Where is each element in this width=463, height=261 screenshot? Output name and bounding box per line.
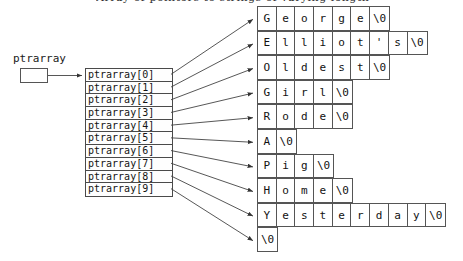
string-row: Rode\0 xyxy=(257,105,353,130)
string-char-cell: o xyxy=(276,104,296,129)
string-char-cell: A xyxy=(257,129,277,154)
string-char-cell: g xyxy=(294,154,314,179)
string-row: A\0 xyxy=(257,130,297,155)
string-char-cell: l xyxy=(294,31,314,56)
ptrarray-cell: ptrarray[8] xyxy=(86,171,172,184)
string-char-cell: t xyxy=(350,55,370,80)
string-char-cell: d xyxy=(294,104,314,129)
ptrarray-cell: ptrarray[7] xyxy=(86,158,172,171)
string-char-cell: ' xyxy=(369,31,389,56)
string-null-terminator-cell: \0 xyxy=(257,227,278,252)
string-char-cell: d xyxy=(369,203,389,228)
pointer-variable-label: ptrarray xyxy=(13,53,66,65)
string-char-cell: R xyxy=(257,104,277,129)
string-char-cell: e xyxy=(313,55,333,80)
string-char-cell: l xyxy=(276,31,296,56)
string-char-cell: Y xyxy=(257,203,277,228)
string-char-cell: s xyxy=(388,31,408,56)
string-char-cell: E xyxy=(257,31,277,56)
pointer-arrow xyxy=(171,138,253,142)
string-char-cell: H xyxy=(257,178,277,203)
string-char-cell: d xyxy=(294,55,314,80)
string-char-cell: o xyxy=(294,6,314,31)
string-null-terminator-cell: \0 xyxy=(369,6,390,31)
string-char-cell: o xyxy=(276,178,296,203)
ptrarray-cell: ptrarray[9] xyxy=(86,183,172,196)
string-row: Yesterday\0 xyxy=(257,204,446,229)
string-char-cell: G xyxy=(257,80,277,105)
string-char-cell: m xyxy=(294,178,314,203)
pointer-arrow xyxy=(171,93,253,112)
ptrarray-cell: ptrarray[2] xyxy=(86,94,172,107)
pointer-arrow xyxy=(171,19,253,74)
string-char-cell: e xyxy=(276,203,296,228)
string-char-cell: e xyxy=(313,178,333,203)
string-null-terminator-cell: \0 xyxy=(332,104,353,129)
pointer-arrow xyxy=(171,189,253,241)
string-char-cell: a xyxy=(388,203,408,228)
string-row: George\0 xyxy=(257,7,390,32)
pointer-array-diagram: Array of pointers to strings of varying … xyxy=(0,0,463,261)
string-char-cell: i xyxy=(313,31,333,56)
string-row: Home\0 xyxy=(257,179,353,204)
pointer-arrow xyxy=(171,118,253,125)
string-char-cell: i xyxy=(276,154,296,179)
string-row: \0 xyxy=(257,228,278,253)
string-row: Pig\0 xyxy=(257,155,334,180)
string-row: Elliot's\0 xyxy=(257,32,428,57)
string-char-cell: l xyxy=(276,55,296,80)
string-char-cell: e xyxy=(332,203,352,228)
string-char-cell: e xyxy=(350,6,370,31)
string-null-terminator-cell: \0 xyxy=(332,80,353,105)
pointer-arrow xyxy=(171,176,253,216)
string-char-cell: r xyxy=(294,80,314,105)
string-null-terminator-cell: \0 xyxy=(332,178,353,203)
ptrarray-cell: ptrarray[5] xyxy=(86,132,172,145)
ptrarray-cell: ptrarray[0] xyxy=(86,69,172,82)
string-row: Oldest\0 xyxy=(257,56,390,81)
string-null-terminator-cell: \0 xyxy=(369,55,390,80)
pointer-arrow xyxy=(171,44,253,87)
string-char-cell: e xyxy=(313,104,333,129)
string-null-terminator-cell: \0 xyxy=(313,154,334,179)
string-char-cell: P xyxy=(257,154,277,179)
string-null-terminator-cell: \0 xyxy=(425,203,446,228)
pointer-arrow xyxy=(171,163,253,191)
pointer-arrow xyxy=(171,69,253,100)
ptrarray-cell: ptrarray[6] xyxy=(86,145,172,158)
string-char-cell: r xyxy=(313,6,333,31)
string-char-cell: t xyxy=(313,203,333,228)
string-char-cell: y xyxy=(407,203,427,228)
string-char-cell: i xyxy=(276,80,296,105)
diagram-caption: Array of pointers to strings of varying … xyxy=(96,0,396,3)
ptrarray-cell-stack: ptrarray[0]ptrarray[1]ptrarray[2]ptrarra… xyxy=(85,68,173,197)
string-char-cell: O xyxy=(257,55,277,80)
string-char-cell: l xyxy=(313,80,333,105)
string-char-cell: e xyxy=(276,6,296,31)
ptrarray-cell: ptrarray[1] xyxy=(86,82,172,95)
string-char-cell: s xyxy=(332,55,352,80)
string-char-cell: t xyxy=(350,31,370,56)
string-null-terminator-cell: \0 xyxy=(407,31,428,56)
string-row: Girl\0 xyxy=(257,81,353,106)
pointer-arrow xyxy=(171,151,253,167)
string-char-cell: o xyxy=(332,31,352,56)
ptrarray-cell: ptrarray[3] xyxy=(86,107,172,120)
string-char-cell: r xyxy=(350,203,370,228)
string-char-cell: G xyxy=(257,6,277,31)
string-char-cell: s xyxy=(294,203,314,228)
string-char-cell: g xyxy=(332,6,352,31)
ptrarray-cell: ptrarray[4] xyxy=(86,120,172,133)
pointer-variable-box xyxy=(20,68,48,83)
string-null-terminator-cell: \0 xyxy=(276,129,297,154)
